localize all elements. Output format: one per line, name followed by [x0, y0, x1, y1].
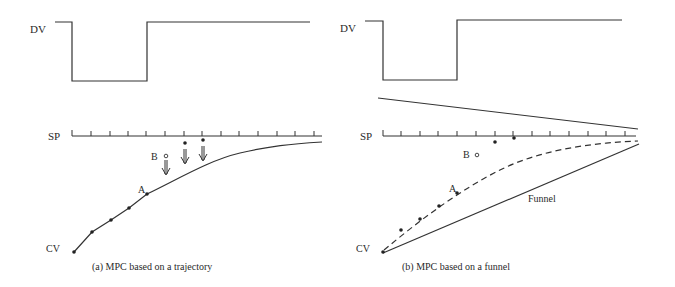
down-arrow-icon	[162, 160, 170, 175]
point-a-label: A	[138, 184, 146, 195]
panel-a: DV SP	[30, 22, 322, 273]
point-b-marker	[475, 153, 479, 157]
dashed-trajectory-curve	[384, 141, 638, 250]
point-a-label: A	[449, 183, 457, 194]
trajectory-curve	[74, 142, 322, 252]
point-b-label: B	[151, 151, 158, 162]
sp-label: SP	[360, 130, 372, 142]
down-arrow-icons	[162, 146, 207, 175]
cv-label: CV	[356, 243, 371, 254]
panel-b: DV SP	[340, 20, 639, 273]
sp-ticks	[72, 130, 314, 136]
dv-signal-line	[55, 22, 310, 81]
diagram-canvas: DV SP	[0, 0, 675, 287]
point-b-label: B	[463, 149, 470, 160]
cv-label: CV	[46, 243, 61, 254]
point-b-marker	[164, 154, 168, 158]
dv-signal-line	[365, 20, 622, 80]
caption-a: (a) MPC based on a trajectory	[92, 261, 212, 273]
funnel-lower-line	[383, 144, 639, 253]
cv-points	[72, 138, 205, 254]
sp-ticks	[383, 130, 625, 136]
sp-label: SP	[48, 130, 60, 142]
funnel-upper-line	[378, 98, 638, 129]
down-arrow-icon	[199, 146, 207, 161]
funnel-label: Funnel	[528, 193, 556, 204]
mpc-diagram: DV SP	[0, 0, 675, 287]
dv-label: DV	[30, 23, 46, 35]
caption-b: (b) MPC based on a funnel	[402, 261, 510, 273]
down-arrow-icon	[181, 149, 189, 164]
dv-label: DV	[340, 22, 356, 34]
